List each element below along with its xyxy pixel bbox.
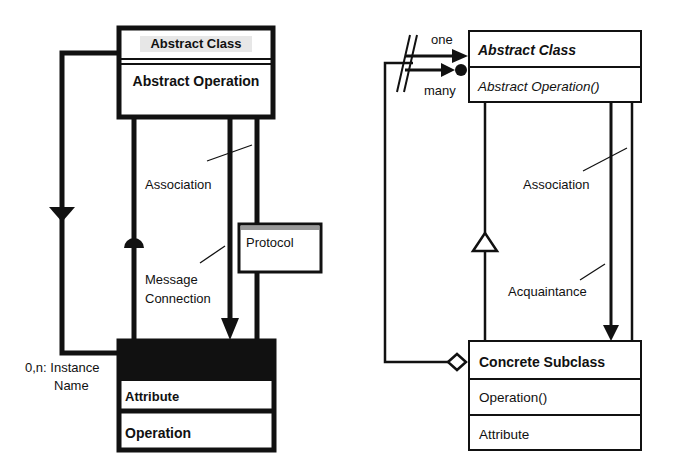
right-diagram: one many Abstract Class Abstract Operati… [385, 31, 641, 450]
instance-attribute: Attribute [125, 389, 179, 404]
arrow-down-right-icon [603, 325, 619, 341]
instance-operation: Operation [125, 425, 191, 441]
acquaintance-leader [580, 264, 605, 280]
aggregation-loop-line [385, 63, 455, 362]
half-circle-icon [124, 238, 144, 248]
protocol-label: Protocol [246, 235, 294, 250]
instance-label-line2: Name [54, 378, 89, 393]
arrow-right-small-icon [441, 63, 455, 77]
inheritance-triangle-icon [473, 233, 497, 251]
acquaintance-label: Acquaintance [508, 284, 587, 299]
dot-many-icon [455, 64, 467, 76]
abstract-class-title-left: Abstract Class [150, 36, 241, 51]
triangle-down-icon [49, 207, 75, 222]
concrete-attribute: Attribute [479, 427, 529, 442]
multiplicity-many: many [424, 83, 456, 98]
left-diagram: Abstract Class Abstract Operation Protoc… [25, 28, 321, 450]
concrete-subclass-title: Concrete Subclass [479, 354, 605, 370]
association-label-right: Association [523, 177, 589, 192]
arrow-right-icon [452, 49, 468, 63]
instance-loop-line [62, 53, 117, 353]
abstract-class-title-right: Abstract Class [477, 42, 576, 58]
concrete-operation: Operation() [479, 390, 547, 405]
message-leader [200, 246, 225, 263]
notation-diagram: Abstract Class Abstract Operation Protoc… [0, 0, 677, 475]
abstract-operation-right: Abstract Operation() [477, 79, 600, 94]
arrow-down-icon [221, 318, 239, 340]
diamond-icon [448, 354, 466, 370]
association-label-left: Association [145, 177, 211, 192]
association-leader-right [583, 148, 627, 171]
message-label-line2: Connection [145, 291, 211, 306]
instance-label-line1: 0,n: Instance [25, 360, 99, 375]
abstract-operation-left: Abstract Operation [133, 73, 260, 89]
multiplicity-one: one [431, 32, 453, 47]
message-label-line1: Message [145, 272, 198, 287]
